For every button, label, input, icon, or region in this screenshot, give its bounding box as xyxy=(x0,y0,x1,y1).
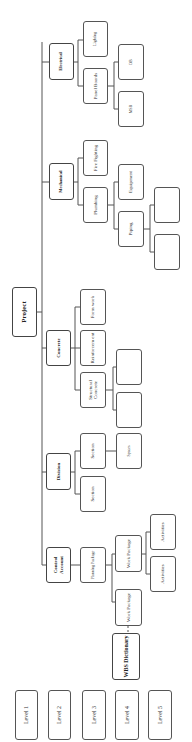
node-electrical: Electrical xyxy=(49,43,74,80)
node-concrete-empty-2 xyxy=(116,349,142,385)
node-work-package-2: Work Package xyxy=(115,535,142,572)
node-spaces: Spaces xyxy=(116,433,142,469)
node-panel-boards: Panel Boards xyxy=(83,68,108,104)
level-3-label: Level 3 xyxy=(82,690,106,740)
node-piping: Piping xyxy=(118,211,144,247)
node-control-account: Control Account xyxy=(46,547,71,583)
level-4-label: Level 4 xyxy=(115,690,139,740)
wbs-diagram: Project Level 1 Level 2 Level 3 Level 4 … xyxy=(0,0,192,742)
node-db: DB xyxy=(118,44,144,80)
node-structural-concrete: Structural Concrete xyxy=(80,372,106,408)
node-reinforcement: Reinforcem ent xyxy=(80,330,106,366)
node-division: Division xyxy=(46,453,71,490)
node-plumbing: Plumbing xyxy=(83,187,108,223)
node-section-1: Section xyxy=(80,476,106,512)
node-activities-1: Activities xyxy=(150,556,176,592)
node-concrete-empty-1 xyxy=(116,392,142,428)
node-mechanical-empty-1 xyxy=(154,234,180,270)
node-work-package-1: Work Package xyxy=(115,589,142,626)
level-2-label: Level 2 xyxy=(48,690,71,740)
node-wbs-dictionary: WBS Dictionary xyxy=(112,633,140,680)
node-equipment: Equipment xyxy=(118,164,144,200)
node-lighting: Lighting xyxy=(83,21,108,57)
node-msb: MSB xyxy=(118,91,144,127)
node-mechanical-empty-2 xyxy=(154,187,180,223)
connector-lines xyxy=(0,0,192,742)
level-5-label: Level 5 xyxy=(148,690,172,740)
node-formwork: Form work xyxy=(80,289,106,325)
node-project: Project xyxy=(12,287,37,337)
node-mechanical: Mechanical xyxy=(49,163,74,200)
node-planning-package: Planning Package xyxy=(80,547,106,583)
node-activities-2: Activities xyxy=(150,514,176,550)
level-1-label: Level 1 xyxy=(15,690,38,740)
node-concrete: Concrete xyxy=(46,330,71,366)
node-fire-fighting: Fire Fighting xyxy=(83,140,108,176)
node-section-2: Section xyxy=(80,433,106,469)
